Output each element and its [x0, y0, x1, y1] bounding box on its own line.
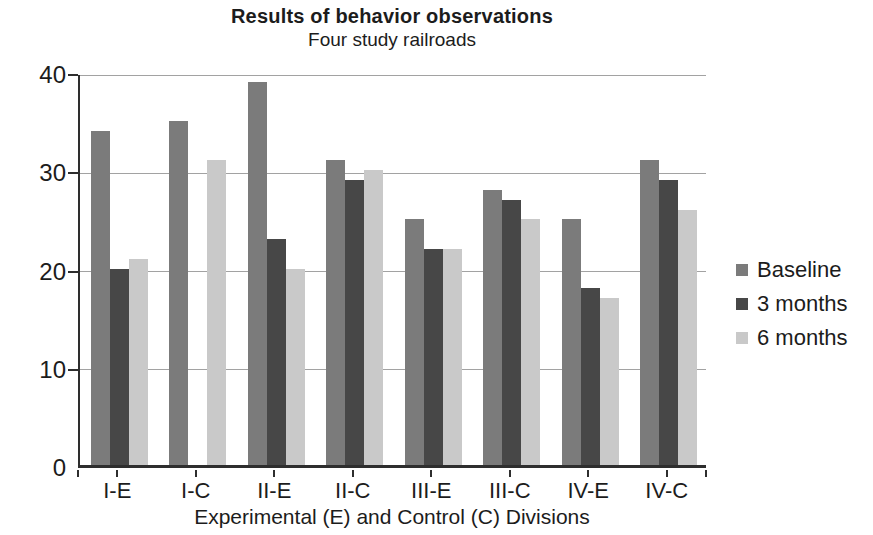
bar-III-E-3-months [424, 249, 443, 465]
legend-item-3-months: 3 months [736, 292, 848, 316]
legend-swatch-icon [736, 264, 748, 276]
y-axis-tick-40 [68, 74, 78, 76]
y-axis-label-10: 10 [14, 358, 66, 382]
x-axis-title: Experimental (E) and Control (C) Divisio… [78, 505, 706, 529]
x-axis-tick-II-C [352, 470, 354, 477]
x-axis-label-I-C: I-C [151, 478, 241, 504]
x-axis-tick-III-E [430, 470, 432, 477]
bar-IV-E-6-months [600, 298, 619, 465]
x-axis-tick-III-C [509, 470, 511, 477]
bar-III-E-baseline [405, 219, 424, 465]
bar-II-C-3-months [345, 180, 364, 465]
x-axis-label-II-C: II-C [308, 478, 398, 504]
bar-chart-figure: Results of behavior observations Four st… [0, 0, 873, 535]
x-axis-tick-II-E [273, 470, 275, 477]
bar-II-E-3-months [267, 239, 286, 465]
bar-I-E-6-months [129, 259, 148, 465]
x-axis-label-III-E: III-E [386, 478, 476, 504]
bar-III-E-6-months [443, 249, 462, 465]
y-axis-label-0: 0 [14, 456, 66, 480]
bar-I-C-6-months [207, 160, 226, 465]
bar-IV-C-6-months [678, 210, 697, 465]
bar-II-E-baseline [248, 82, 267, 465]
x-axis-label-III-C: III-C [465, 478, 555, 504]
gridline-40 [80, 75, 706, 76]
legend: Baseline3 months6 months [736, 258, 848, 360]
x-axis-label-I-E: I-E [72, 478, 162, 504]
x-axis-tick-I-E [116, 470, 118, 477]
bar-I-E-baseline [91, 131, 110, 465]
legend-label: Baseline [757, 258, 841, 282]
x-axis-tick-I-C [195, 470, 197, 477]
bar-II-C-baseline [326, 160, 345, 465]
legend-item-6-months: 6 months [736, 326, 848, 350]
legend-label: 3 months [757, 292, 848, 316]
bar-II-C-6-months [364, 170, 383, 465]
y-axis-label-30: 30 [14, 161, 66, 185]
bar-III-C-6-months [521, 219, 540, 465]
x-axis-label-II-E: II-E [229, 478, 319, 504]
x-axis-tick-IV-E [587, 470, 589, 477]
bar-IV-E-3-months [581, 288, 600, 465]
plot-area [78, 75, 706, 468]
legend-item-baseline: Baseline [736, 258, 848, 282]
bar-II-E-6-months [286, 269, 305, 466]
y-axis-tick-20 [68, 271, 78, 273]
x-axis-label-IV-E: IV-E [543, 478, 633, 504]
x-axis-end-tick-1 [705, 470, 707, 477]
y-axis-tick-10 [68, 369, 78, 371]
legend-swatch-icon [736, 332, 748, 344]
x-axis-end-tick-0 [77, 470, 79, 477]
x-axis-label-IV-C: IV-C [622, 478, 712, 504]
bar-I-E-3-months [110, 269, 129, 466]
y-axis-tick-30 [68, 172, 78, 174]
chart-subtitle: Four study railroads [78, 29, 706, 51]
bar-IV-C-baseline [640, 160, 659, 465]
bar-III-C-baseline [483, 190, 502, 465]
bar-IV-C-3-months [659, 180, 678, 465]
bar-III-C-3-months [502, 200, 521, 465]
bar-IV-E-baseline [562, 219, 581, 465]
legend-label: 6 months [757, 326, 848, 350]
legend-swatch-icon [736, 298, 748, 310]
bar-I-C-baseline [169, 121, 188, 465]
y-axis-label-20: 20 [14, 260, 66, 284]
x-axis-tick-IV-C [666, 470, 668, 477]
chart-title: Results of behavior observations [78, 5, 706, 28]
y-axis-label-40: 40 [14, 63, 66, 87]
